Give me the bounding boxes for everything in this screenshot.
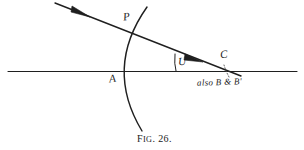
label-point-p: P [122, 11, 130, 23]
label-point-c: C [219, 49, 227, 61]
ray-arrowhead-upper [71, 6, 90, 17]
diagram-canvas [0, 0, 304, 150]
ray-arrowhead-lower [184, 54, 203, 62]
figure-caption: FIG. 26. [137, 133, 172, 144]
label-angle-u: U [178, 56, 187, 67]
angle-arc-U [175, 54, 176, 71]
label-point-a: A [108, 73, 116, 85]
caption-smallcaps: IG [143, 135, 152, 144]
label-note-also-b-and-b-prime: also B & B' [197, 77, 242, 88]
caption-number: . 26. [152, 133, 172, 144]
figure-26-diagram: P A U C also B & B' FIG. 26. [0, 0, 304, 150]
wavefront-arc [124, 7, 147, 131]
